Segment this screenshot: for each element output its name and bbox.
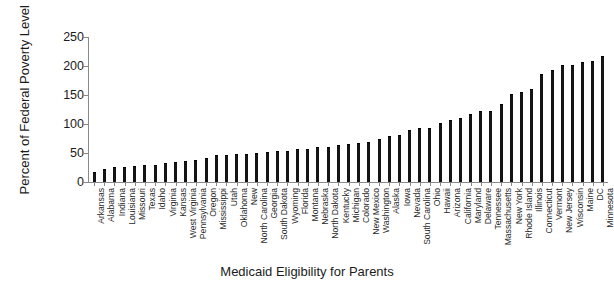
x-category-label: Pennsylvania (199, 188, 208, 239)
x-category-label: New York (515, 188, 524, 224)
x-tick-mark (430, 182, 431, 186)
x-category-label: Montana (311, 188, 320, 221)
x-tick-mark (552, 182, 553, 186)
x-tick-mark (491, 182, 492, 186)
x-tick-mark (226, 182, 227, 186)
x-category-label: Kentucky (342, 188, 351, 223)
x-tick-mark (481, 182, 482, 186)
x-tick-mark (501, 182, 502, 186)
y-tick-mark (83, 95, 88, 96)
x-category-label: Connecticut (545, 188, 554, 233)
x-category-label: Georgia (270, 188, 279, 219)
x-tick-mark (542, 182, 543, 186)
x-tick-mark (125, 182, 126, 186)
x-category-label: Utah (230, 188, 239, 206)
x-category-label: California (464, 188, 473, 224)
x-tick-mark (603, 182, 604, 186)
x-tick-mark (298, 182, 299, 186)
x-category-label: Wyoming (291, 188, 300, 224)
x-tick-mark (562, 182, 563, 186)
x-tick-mark (359, 182, 360, 186)
x-tick-mark (460, 182, 461, 186)
x-tick-mark (114, 182, 115, 186)
y-tick-mark (83, 124, 88, 125)
x-category-label: Vermont (555, 188, 564, 220)
x-tick-mark (216, 182, 217, 186)
x-axis-category-labels: ArkansasAlabamaIndianaLouisianaMissouriT… (0, 0, 614, 292)
x-tick-mark (369, 182, 370, 186)
x-category-label: South Dakota (280, 188, 289, 240)
x-category-label: Louisiana (128, 188, 137, 225)
x-category-label: Idaho (158, 188, 167, 210)
y-tick-mark (83, 153, 88, 154)
x-tick-mark (338, 182, 339, 186)
x-tick-mark (450, 182, 451, 186)
x-category-label: Oklahoma (240, 188, 249, 227)
x-tick-mark (328, 182, 329, 186)
x-category-label: New Mexico (372, 188, 381, 235)
x-tick-mark (349, 182, 350, 186)
x-category-label: Hawaii (443, 188, 452, 214)
x-tick-mark (277, 182, 278, 186)
x-tick-mark (522, 182, 523, 186)
x-tick-mark (196, 182, 197, 186)
x-category-label: Virginia (169, 188, 178, 217)
x-category-label: Indiana (118, 188, 127, 216)
x-tick-mark (94, 182, 95, 186)
x-category-label: North Dakota (331, 188, 340, 239)
x-category-label: Maine (586, 188, 595, 211)
x-category-label: Michigan (352, 188, 361, 222)
x-category-label: Nevada (413, 188, 422, 218)
x-tick-mark (206, 182, 207, 186)
x-tick-mark (104, 182, 105, 186)
x-tick-mark (593, 182, 594, 186)
x-category-label: New (250, 188, 259, 205)
x-tick-mark (308, 182, 309, 186)
x-category-label: Mississippi (219, 188, 228, 230)
x-category-label: Kansas (179, 188, 188, 217)
x-category-label: Missouri (138, 188, 147, 220)
x-tick-mark (318, 182, 319, 186)
x-axis-title: Medicaid Eligibility for Parents (0, 264, 614, 279)
x-category-label: Oregon (209, 188, 218, 217)
x-category-label: Florida (301, 188, 310, 214)
y-tick-mark (83, 182, 88, 183)
x-category-label: North Carolina (260, 188, 269, 243)
x-category-label: Arkansas (97, 188, 106, 224)
x-tick-mark (176, 182, 177, 186)
x-category-label: Illinois (535, 188, 544, 212)
x-category-label: New Jersey (565, 188, 574, 233)
x-category-label: Nebraska (321, 188, 330, 225)
x-category-label: Alaska (392, 188, 401, 214)
x-tick-mark (399, 182, 400, 186)
x-category-label: West Virginia (189, 188, 198, 238)
x-category-label: Colorado (362, 188, 371, 223)
x-category-label: Ohio (433, 188, 442, 206)
x-category-label: Rhode Island (525, 188, 534, 239)
x-category-label: Minnesota (606, 188, 614, 228)
x-category-label: DC (596, 188, 605, 200)
x-tick-mark (420, 182, 421, 186)
x-tick-mark (379, 182, 380, 186)
bar-chart-figure: Percent of Federal Poverty Level 0501001… (0, 0, 614, 292)
x-category-label: Texas (148, 188, 157, 210)
x-tick-mark (410, 182, 411, 186)
x-category-label: Alabama (107, 188, 116, 222)
x-tick-mark (145, 182, 146, 186)
x-tick-mark (247, 182, 248, 186)
y-tick-mark (83, 37, 88, 38)
x-category-label: Wisconsin (576, 188, 585, 227)
x-category-label: Maryland (474, 188, 483, 223)
x-tick-mark (572, 182, 573, 186)
x-tick-mark (287, 182, 288, 186)
x-tick-mark (389, 182, 390, 186)
x-tick-mark (165, 182, 166, 186)
x-tick-mark (155, 182, 156, 186)
x-tick-mark (257, 182, 258, 186)
x-category-label: Iowa (403, 188, 412, 206)
x-category-label: Washington (382, 188, 391, 233)
x-category-label: Arizona (453, 188, 462, 217)
x-category-label: Delaware (484, 188, 493, 224)
x-tick-mark (267, 182, 268, 186)
x-tick-mark (583, 182, 584, 186)
